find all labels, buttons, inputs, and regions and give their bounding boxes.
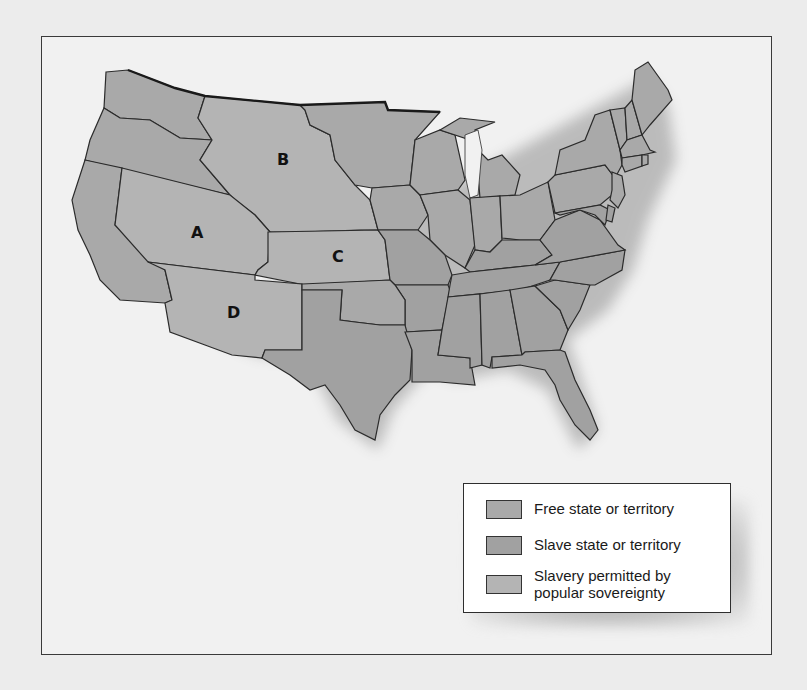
legend-label-slave: Slave state or territory xyxy=(534,536,681,553)
state-indiana xyxy=(470,196,502,252)
region-label-c: C xyxy=(332,247,344,266)
legend-item-popular-sovereignty: Slavery permitted by popular sovereignty xyxy=(486,567,671,601)
legend-swatch-popular-sovereignty xyxy=(486,575,522,594)
legend-swatch-free xyxy=(486,500,522,519)
state-wisconsin xyxy=(410,130,465,195)
region-label-d: D xyxy=(227,303,240,322)
region-label-b: B xyxy=(277,150,289,169)
region-label-a: A xyxy=(191,223,204,242)
legend-label-line-1: Slavery permitted by xyxy=(534,567,671,584)
territory-c-kansas xyxy=(255,230,390,285)
legend-swatch-slave xyxy=(486,536,522,555)
legend-item-free: Free state or territory xyxy=(486,500,674,519)
map-legend: Free state or territory Slave state or t… xyxy=(463,483,731,613)
state-florida xyxy=(492,350,598,440)
legend-label-free: Free state or territory xyxy=(534,500,674,517)
legend-label-popular-sovereignty: Slavery permitted by popular sovereignty xyxy=(534,567,671,601)
legend-label-line-2: popular sovereignty xyxy=(534,584,671,601)
legend-item-slave: Slave state or territory xyxy=(486,536,681,555)
state-rhode-island xyxy=(642,155,648,166)
